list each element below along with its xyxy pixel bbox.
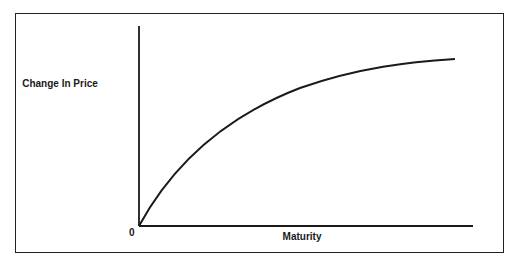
y-axis-label: Change In Price [15, 78, 105, 90]
chart-plot [0, 0, 521, 268]
origin-label: 0 [129, 227, 135, 238]
x-axis-label: Maturity [283, 231, 322, 242]
price-curve [139, 59, 455, 226]
